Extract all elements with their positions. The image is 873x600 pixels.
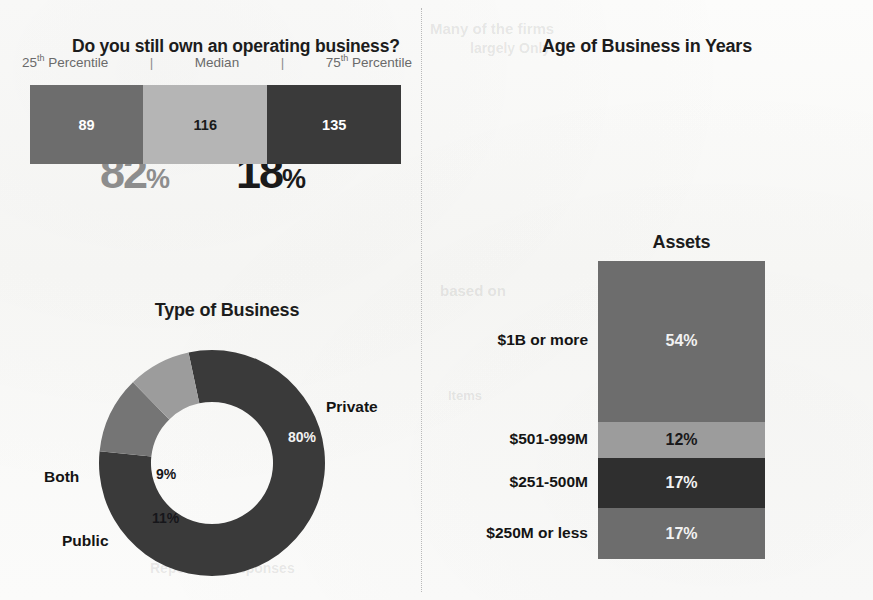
- type-of-business-block: Type of Business Private Both Public 80%…: [44, 300, 404, 590]
- asset-category-label: $250M or less: [486, 524, 588, 542]
- asset-segment: 12%: [598, 422, 765, 458]
- ghost-text-1: Many of the firms: [430, 20, 554, 37]
- donut-label-both: Both: [44, 468, 79, 486]
- age-segment: 135: [267, 85, 401, 164]
- panel-divider: [421, 8, 422, 592]
- donut-slices: [99, 350, 325, 576]
- asset-segment: 54%: [598, 261, 765, 422]
- age-of-business-block: Age of Business in Years: [432, 36, 862, 57]
- type-of-business-donut-chart: [97, 348, 327, 578]
- asset-segment: 17%: [598, 508, 765, 559]
- legend-p75: 75th Percentile: [326, 53, 412, 70]
- legend-separator-2: |: [281, 55, 285, 70]
- ownership-no-symbol: %: [282, 164, 305, 194]
- infographic-page: Many of the firms largely Only based on …: [0, 0, 873, 600]
- assets-stacked-bar: 54%12%17%17%: [598, 261, 765, 559]
- donut-value-private: 80%: [288, 429, 316, 445]
- asset-segment: 17%: [598, 458, 765, 509]
- age-segment: 116: [143, 85, 267, 164]
- asset-category-label: $251-500M: [510, 473, 588, 491]
- age-of-business-legend: 25th Percentile | Median | 75th Percenti…: [22, 53, 412, 70]
- legend-median: Median: [195, 55, 239, 70]
- asset-category-label: $1B or more: [498, 331, 588, 349]
- legend-p25: 25th Percentile: [22, 53, 108, 70]
- age-of-business-bar: 89116135: [30, 85, 401, 164]
- ownership-yes-symbol: %: [146, 164, 169, 194]
- asset-category-label: $501-999M: [510, 430, 588, 448]
- donut-label-private: Private: [326, 398, 378, 416]
- donut-label-public: Public: [62, 532, 109, 550]
- age-of-business-title: Age of Business in Years: [432, 36, 862, 57]
- legend-separator-1: |: [150, 55, 154, 70]
- donut-value-public: 11%: [152, 510, 179, 526]
- assets-title: Assets: [594, 232, 769, 253]
- type-of-business-title: Type of Business: [102, 300, 352, 321]
- donut-value-both: 9%: [156, 466, 176, 482]
- age-segment: 89: [30, 85, 143, 164]
- assets-block: Assets 54%12%17%17% $1B or more$501-999M…: [432, 232, 862, 577]
